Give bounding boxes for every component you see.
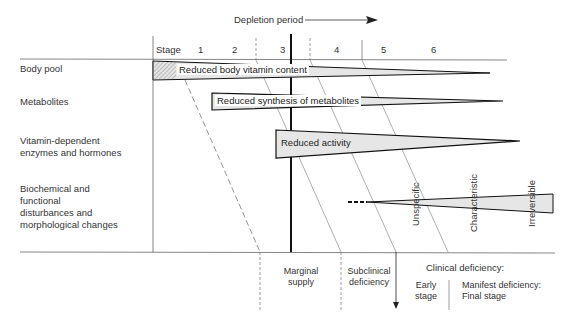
bar-label-metabolites: Reduced synthesis of metabolites	[215, 95, 361, 106]
label-irreversible: Irreversible	[526, 180, 537, 227]
row-label-body-pool: Body pool	[20, 63, 62, 75]
row-label-biochemical: Biochemical and functional disturbances …	[20, 183, 118, 231]
label-unspecific: Unspecific	[410, 182, 421, 226]
stage-2: 2	[232, 44, 237, 55]
subclinical-label: Subclinical deficiency	[343, 266, 395, 288]
manifest-deficiency-label: Manifest deficiency: Final stage	[462, 280, 541, 302]
stage-1: 1	[198, 44, 203, 55]
stage-3: 3	[280, 44, 285, 55]
stage-4: 4	[334, 44, 339, 55]
stage-6: 6	[431, 44, 436, 55]
row-label-enzymes: Vitamin-dependent enzymes and hormones	[20, 135, 121, 159]
clinical-deficiency-label: Clinical deficiency:	[405, 262, 525, 273]
row-label-metabolites: Metabolites	[20, 96, 69, 108]
label-characteristic: Characteristic	[468, 174, 479, 232]
bar-label-activity: Reduced activity	[279, 137, 353, 148]
stage-label: Stage	[156, 44, 181, 55]
bar-label-body-vitamin: Reduced body vitamin content	[177, 64, 309, 75]
early-stage-label: Early stage	[408, 280, 444, 302]
marginal-supply-label: Marginal supply	[276, 266, 326, 288]
stage-5: 5	[381, 44, 386, 55]
depletion-period-label: Depletion period	[234, 14, 303, 26]
